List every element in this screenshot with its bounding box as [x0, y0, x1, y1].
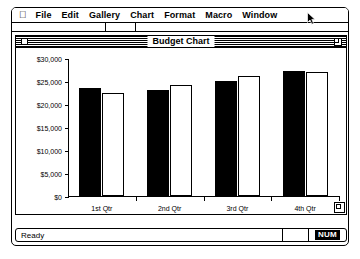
y-axis-label: $10,000: [37, 148, 62, 155]
y-axis-tick: [65, 59, 69, 60]
close-box-icon[interactable]: [21, 38, 28, 45]
y-axis-tick: [65, 174, 69, 175]
status-message: Ready: [16, 230, 282, 241]
arrow-pointer-icon: [307, 12, 316, 25]
menu-bar:  File Edit Gallery Chart Format Macro W…: [12, 8, 348, 23]
chart-window-title: Budget Chart: [148, 36, 215, 47]
grow-box-icon[interactable]: [334, 202, 345, 213]
bar[interactable]: [147, 90, 169, 196]
y-axis-label: $20,000: [37, 102, 62, 109]
apple-menu-icon[interactable]: : [12, 9, 31, 21]
x-axis-tick: [339, 197, 340, 201]
chart-document-window: Budget Chart $0$5,000$10,000$15,000$20,0…: [15, 35, 347, 215]
y-axis-tick: [65, 82, 69, 83]
num-lock-indicator: NUM: [315, 230, 340, 240]
bar[interactable]: [215, 81, 237, 196]
x-axis-label: 1st Qtr: [72, 205, 132, 213]
y-axis-label: $15,000: [37, 125, 62, 132]
chart-canvas: $0$5,000$10,000$15,000$20,000$25,000$30,…: [16, 49, 346, 214]
zoom-box-icon[interactable]: [334, 38, 342, 46]
x-axis-label: 4th Qtr: [275, 205, 335, 213]
x-axis-label: 2nd Qtr: [140, 205, 200, 213]
toolbar-strip: [12, 23, 348, 32]
y-axis-label: $0: [54, 194, 62, 201]
status-cell-num-lock: NUM: [308, 229, 346, 241]
menu-item-gallery[interactable]: Gallery: [84, 9, 125, 22]
menu-item-macro[interactable]: Macro: [200, 9, 237, 22]
y-axis-label: $25,000: [37, 79, 62, 86]
menu-item-chart[interactable]: Chart: [125, 9, 159, 22]
menu-item-window[interactable]: Window: [237, 9, 282, 22]
bar[interactable]: [238, 76, 260, 196]
x-axis-tick: [136, 197, 137, 201]
x-axis-tick: [271, 197, 272, 201]
bar[interactable]: [170, 85, 192, 196]
x-axis-tick: [204, 197, 205, 201]
y-axis-label: $30,000: [37, 56, 62, 63]
bar[interactable]: [102, 93, 124, 196]
bar[interactable]: [306, 72, 328, 196]
y-axis-tick: [65, 151, 69, 152]
menu-item-edit[interactable]: Edit: [57, 9, 84, 22]
bar[interactable]: [283, 71, 305, 196]
y-axis-tick: [65, 197, 69, 198]
status-bar: Ready NUM: [15, 228, 347, 242]
chart-window-titlebar[interactable]: Budget Chart: [16, 36, 346, 48]
y-axis-tick: [65, 105, 69, 106]
status-cell-blank: [282, 229, 308, 241]
application-window:  File Edit Gallery Chart Format Macro W…: [11, 7, 349, 246]
y-axis-tick: [65, 128, 69, 129]
bar[interactable]: [79, 88, 101, 196]
menu-item-format[interactable]: Format: [159, 9, 200, 22]
menu-item-file[interactable]: File: [31, 9, 57, 22]
toolbar-divider: [135, 23, 136, 32]
x-axis-label: 3rd Qtr: [207, 205, 267, 213]
y-axis-label: $5,000: [41, 171, 62, 178]
plot-area: $0$5,000$10,000$15,000$20,000$25,000$30,…: [68, 59, 339, 197]
toolbar-divider: [105, 23, 106, 32]
